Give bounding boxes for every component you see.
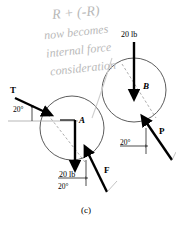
leader-line-f — [107, 181, 117, 192]
label-angle-p: 20° — [120, 139, 131, 147]
label-weight-b: 20 lb — [121, 31, 137, 39]
label-force-t: T — [10, 86, 16, 95]
label-angle-f: 20° — [58, 183, 69, 191]
label-weight-a: 20 lb — [59, 171, 75, 179]
leader-line-p — [172, 152, 176, 160]
circle-body-a — [40, 96, 104, 160]
label-body-b: B — [143, 82, 149, 91]
dashed-line-p-action — [122, 64, 156, 118]
label-angle-t: 20° — [13, 106, 24, 114]
label-force-p: P — [159, 127, 165, 136]
figure-caption: (c) — [81, 206, 91, 215]
label-force-f: F — [104, 166, 110, 175]
label-body-a: A — [79, 116, 85, 125]
figure-container: R + (-R) now becomes internal force cons… — [0, 0, 176, 230]
